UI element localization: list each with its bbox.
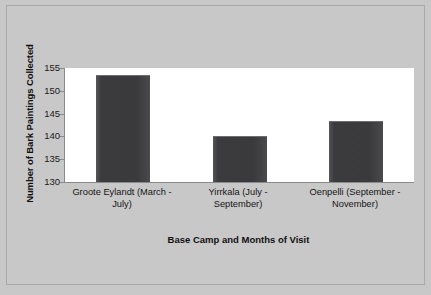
y-axis-tick-label: 140 xyxy=(34,131,60,141)
y-axis-tick-label: 150 xyxy=(34,86,60,96)
x-axis-category-line: Oenpelli (September - xyxy=(291,187,419,199)
x-axis-category-labels: Groote Eylandt (March -July)Yirrkala (Ju… xyxy=(64,187,413,223)
y-axis-tick-labels: 130135140145150155 xyxy=(30,68,60,182)
y-axis-tick-label: 130 xyxy=(34,177,60,187)
x-axis-category-line: September) xyxy=(174,199,302,211)
x-axis-category-line: November) xyxy=(291,199,419,211)
x-axis-category-label: Groote Eylandt (March -July) xyxy=(58,187,186,210)
bark-paintings-bar-chart: Number of Bark Paintings Collected 13013… xyxy=(0,0,431,295)
x-axis-category-line: Groote Eylandt (March - xyxy=(58,187,186,199)
y-axis-tick-label: 155 xyxy=(34,63,60,73)
bar xyxy=(96,75,150,182)
x-axis-category-label: Oenpelli (September -November) xyxy=(291,187,419,210)
x-axis-category-line: July) xyxy=(58,199,186,211)
bar xyxy=(213,136,267,182)
x-axis-title: Base Camp and Months of Visit xyxy=(64,234,413,245)
plot-area xyxy=(64,68,414,183)
y-axis-tick-label: 145 xyxy=(34,109,60,119)
bar xyxy=(329,121,383,182)
x-axis-category-label: Yirrkala (July -September) xyxy=(174,187,302,210)
x-axis-category-line: Yirrkala (July - xyxy=(174,187,302,199)
y-axis-tick-label: 135 xyxy=(34,154,60,164)
